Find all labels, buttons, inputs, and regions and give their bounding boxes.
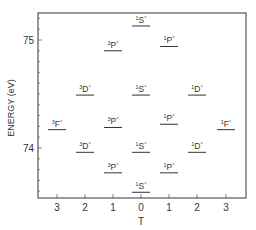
energy-level: 1P° bbox=[160, 35, 178, 46]
term-label: 1P° bbox=[164, 35, 175, 45]
y-tick-label: 74 bbox=[23, 143, 35, 154]
energy-level: 3D° bbox=[76, 84, 94, 95]
x-tick-label: 1 bbox=[110, 202, 116, 213]
energy-level: 1S° bbox=[132, 15, 150, 26]
x-tick-label: 3 bbox=[223, 202, 229, 213]
x-tick-label: 2 bbox=[194, 202, 200, 213]
x-axis-label: T bbox=[138, 216, 144, 227]
energy-levels: 1S°3P°1P°3D°1S°1D°3F°3P°1P°1F°3D°1S°1D°3… bbox=[48, 15, 235, 192]
energy-level: 1S° bbox=[132, 141, 150, 152]
energy-level: 3P° bbox=[104, 162, 122, 173]
term-label: 3F° bbox=[52, 119, 62, 129]
energy-level: 1P° bbox=[160, 162, 178, 173]
y-axis-label: ENERGY (eV) bbox=[6, 79, 16, 136]
x-tick-label: 3 bbox=[54, 202, 60, 213]
energy-level-diagram: 7475 3210123 1S°3P°1P°3D°1S°1D°3F°3P°1P°… bbox=[0, 0, 256, 230]
term-label: 3P° bbox=[108, 40, 119, 50]
term-label: 3D° bbox=[79, 141, 90, 151]
energy-level: 3P° bbox=[104, 40, 122, 51]
x-tick-label: 0 bbox=[138, 202, 144, 213]
term-label: 1D° bbox=[191, 141, 202, 151]
energy-level: 3D° bbox=[76, 141, 94, 152]
plot-frame bbox=[38, 13, 246, 198]
x-axis-ticks: 3210123 bbox=[54, 194, 229, 213]
term-label: 1S° bbox=[136, 141, 147, 151]
x-tick-label: 2 bbox=[82, 202, 88, 213]
x-tick-label: 1 bbox=[166, 202, 172, 213]
term-label: 1F° bbox=[221, 119, 231, 129]
term-label: 1S° bbox=[136, 15, 147, 25]
energy-level: 1S° bbox=[132, 181, 150, 192]
term-label: 1S° bbox=[136, 84, 147, 94]
energy-level: 1F° bbox=[217, 119, 235, 130]
energy-level: 1D° bbox=[188, 84, 206, 95]
term-label: 1S° bbox=[136, 181, 147, 191]
term-label: 1P° bbox=[164, 113, 175, 123]
term-label: 3P° bbox=[108, 162, 119, 172]
term-label: 3P° bbox=[108, 116, 119, 126]
term-label: 1P° bbox=[164, 162, 175, 172]
y-tick-label: 75 bbox=[23, 35, 35, 46]
term-label: 1D° bbox=[191, 84, 202, 94]
energy-level: 1S° bbox=[132, 84, 150, 95]
energy-level: 1P° bbox=[160, 113, 178, 124]
term-label: 3D° bbox=[79, 84, 90, 94]
energy-level: 3P° bbox=[104, 116, 122, 127]
energy-level: 3F° bbox=[48, 119, 66, 130]
y-axis-ticks: 7475 bbox=[23, 18, 42, 191]
energy-level: 1D° bbox=[188, 141, 206, 152]
